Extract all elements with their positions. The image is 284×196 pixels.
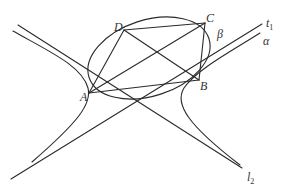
segment-AC (89, 23, 205, 93)
label-t1: t1 (266, 16, 273, 32)
asymptote-l2 (18, 25, 242, 168)
hyperbola-ellipse-diagram: A D C B β α t1 l2 (0, 0, 284, 196)
segment-CB (199, 23, 205, 80)
label-l2: l2 (247, 170, 254, 186)
label-beta: β (216, 27, 223, 41)
segment-DB (124, 30, 199, 80)
ellipse (77, 2, 220, 113)
segment-AD (89, 30, 124, 93)
segment-DC (124, 23, 205, 30)
label-A: A (79, 90, 88, 104)
hyperbola-left-branch (13, 31, 89, 162)
hyperbola-right-branch (181, 33, 260, 165)
label-alpha: α (263, 34, 270, 48)
label-B: B (200, 79, 208, 93)
asymptote-t1 (11, 24, 262, 179)
label-C: C (206, 11, 215, 25)
label-D: D (113, 20, 123, 34)
